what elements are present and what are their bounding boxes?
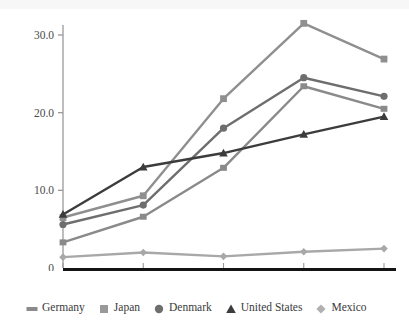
legend-item-germany[interactable]: Germany [26,301,85,313]
legend-item-denmark[interactable]: Denmark [153,301,212,313]
legend-label: Germany [42,301,85,313]
data-point-marker [60,239,67,245]
diamond-marker [315,301,327,313]
data-point-marker [140,192,147,199]
data-point-marker [300,248,308,256]
plot-area: 010.020.030.019751985199019951999 [0,9,409,271]
circle-marker [153,301,165,313]
legend-label: United States [241,301,303,313]
series-markers-germany [60,83,388,245]
data-point-marker [220,253,228,261]
data-point-marker [220,95,227,102]
triangle-marker [225,301,237,313]
y-axis-tick-label: 30.0 [34,29,54,41]
data-point-marker [140,201,147,208]
legend-label: Mexico [331,301,366,313]
legend-label: Denmark [169,301,212,313]
data-point-marker [380,245,388,253]
line-chart-svg: 010.020.030.019751985199019951999 [0,9,409,271]
data-point-marker [381,106,388,112]
data-point-marker [381,56,388,63]
series-line [63,86,384,242]
series-markers-japan [60,20,388,221]
data-point-marker [300,20,307,27]
data-point-marker [220,125,227,132]
chart-legend: GermanyJapanDenmarkUnited StatesMexico [0,296,409,318]
legend-item-japan[interactable]: Japan [98,301,140,313]
data-point-marker [300,74,307,81]
series-japan [63,23,384,217]
data-point-marker [140,214,147,220]
y-axis-tick-label: 20.0 [34,107,54,119]
data-point-marker [59,221,66,228]
chart-figure: 010.020.030.019751985199019951999 German… [0,0,409,324]
series-markers-mexico [59,245,388,261]
series-line [63,23,384,217]
data-point-marker [380,93,387,100]
legend-item-united-states[interactable]: United States [225,301,303,313]
data-point-marker [220,165,227,171]
y-axis-tick-label: 10.0 [34,184,54,196]
square-marker [98,301,110,313]
legend-item-mexico[interactable]: Mexico [315,301,366,313]
data-point-marker [59,253,67,261]
cropped-title-strip [0,0,409,9]
y-axis-tick-label: 0 [48,262,54,271]
data-point-marker [300,83,307,89]
rect-marker [26,301,38,313]
legend-label: Japan [114,301,140,313]
series-germany [63,86,384,242]
data-point-marker [139,249,147,257]
